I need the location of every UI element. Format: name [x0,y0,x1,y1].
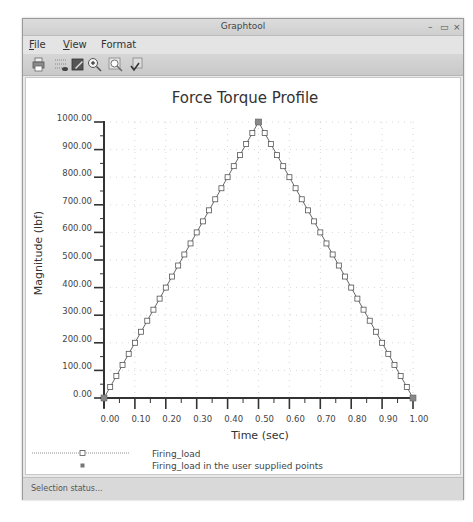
chart-grid [104,122,413,398]
zoom-fit-icon[interactable] [108,57,123,72]
svg-text:700.00: 700.00 [62,196,92,206]
legend-filled-square-icon [81,464,85,468]
menu-view[interactable]: View [63,39,87,50]
svg-text:0.50: 0.50 [255,414,274,424]
chart-title: Force Torque Profile [172,89,319,107]
chart-axes [100,121,415,408]
maximize-button[interactable]: ▭ [440,21,449,33]
svg-text:0.10: 0.10 [131,414,150,424]
y-axis-ticks: 0.00100.00200.00300.00400.00500.00600.00… [57,113,104,399]
svg-text:0.70: 0.70 [317,414,336,424]
svg-text:0.90: 0.90 [379,414,398,424]
selection-status: Selection status... [31,484,103,493]
menu-format-label: Format [101,39,136,50]
legend-label-firing-load: Firing_load [152,449,200,459]
svg-text:200.00: 200.00 [62,334,92,344]
menu-view-label: iew [70,39,87,50]
edit-image-icon[interactable] [70,57,85,72]
title-bar: Graphtool – ▭ × [23,19,463,36]
svg-text:100.00: 100.00 [62,361,92,371]
x-axis-label: Time (sec) [230,429,289,442]
menu-bar: File View Format [23,36,463,54]
status-bar: Selection status... [23,477,463,500]
svg-text:0.40: 0.40 [224,414,243,424]
legend: Firing_load Firing_load in the user supp… [32,449,323,471]
svg-text:0.80: 0.80 [348,414,367,424]
graphtool-window: Graphtool – ▭ × File View Format [22,18,464,500]
print-icon[interactable] [31,57,46,72]
svg-text:1000.00: 1000.00 [57,113,92,123]
x-axis-ticks: 0.000.100.200.300.400.500.600.700.800.90… [101,398,429,424]
y-axis-label: Magnitude (lbf) [32,211,45,295]
menu-file[interactable]: File [29,39,46,50]
svg-text:0.60: 0.60 [286,414,305,424]
apply-check-icon[interactable] [129,57,144,72]
svg-text:1.00: 1.00 [410,414,429,424]
svg-text:0.20: 0.20 [162,414,181,424]
menu-file-label: ile [34,39,46,50]
svg-text:0.00: 0.00 [73,389,92,399]
svg-text:500.00: 500.00 [62,251,92,261]
force-torque-chart[interactable]: Force Torque Profile 0.00100.00200.00300… [26,78,462,476]
menu-format[interactable]: Format [101,39,136,50]
svg-text:800.00: 800.00 [62,168,92,178]
grid-view-icon[interactable] [54,57,69,72]
toolbar [23,54,463,76]
svg-text:0.30: 0.30 [193,414,212,424]
legend-item-user-points[interactable]: Firing_load in the user supplied points [81,461,324,471]
minimize-button[interactable]: – [428,21,433,33]
svg-text:300.00: 300.00 [62,306,92,316]
legend-item-firing-load[interactable]: Firing_load [32,449,200,459]
svg-text:400.00: 400.00 [62,279,92,289]
svg-text:900.00: 900.00 [62,141,92,151]
plot-panel[interactable]: Force Torque Profile 0.00100.00200.00300… [25,77,461,475]
menu-view-mnemonic: V [63,39,70,50]
legend-open-square-icon [80,451,85,456]
zoom-in-icon[interactable] [87,57,102,72]
close-button[interactable]: × [453,21,461,33]
window-title: Graphtool [23,21,463,31]
legend-label-user-points: Firing_load in the user supplied points [152,461,323,471]
svg-text:0.00: 0.00 [101,414,120,424]
svg-text:600.00: 600.00 [62,223,92,233]
